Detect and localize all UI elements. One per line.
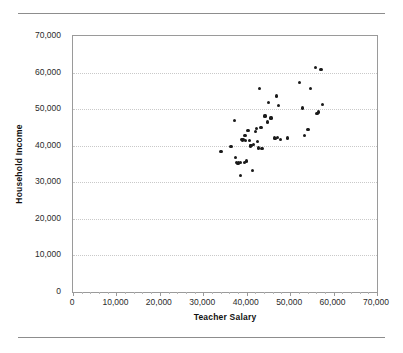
data-point [321,103,324,106]
x-tick-50000 [290,292,291,296]
plot-area [72,35,378,293]
x-tick-label-40000: 40,000 [233,297,259,307]
data-point [286,136,289,139]
data-point [246,129,249,132]
y-axis-title: Household Income [14,35,28,293]
data-point [267,101,270,104]
top-rule [18,13,385,14]
x-tick-56000 [316,292,317,294]
x-tick-58000 [325,292,326,294]
gridline-y-20000 [73,219,377,220]
data-point [306,128,309,131]
data-point [279,138,282,141]
x-tick-label-70000: 70,000 [363,297,389,307]
x-tick-8000 [108,292,109,294]
data-point [219,150,222,153]
x-tick-22000 [169,292,170,294]
data-point [229,145,232,148]
data-point [260,147,263,150]
bottom-rule [18,337,385,338]
x-tick-52000 [299,292,300,294]
data-point [256,140,259,143]
y-axis-tick-labels: 010,00020,00030,00040,00050,00060,00070,… [0,35,68,293]
x-tick-2000 [82,292,83,294]
gridline-y-60000 [73,73,377,74]
y-tick-label-60000: 60,000 [35,67,61,77]
x-tick-34000 [221,292,222,294]
x-axis-title: Teacher Salary [72,312,378,322]
data-point [233,119,236,122]
gridline-y-50000 [73,109,377,110]
data-point [275,94,278,97]
x-tick-12000 [125,292,126,294]
data-point [245,159,248,162]
y-tick-label-50000: 50,000 [35,103,61,113]
x-tick-44000 [264,292,265,294]
x-tick-0 [73,292,74,296]
x-tick-62000 [342,292,343,294]
y-tick-label-70000: 70,000 [35,30,61,40]
data-point [298,81,301,84]
data-point [277,104,280,107]
y-tick-label-40000: 40,000 [35,140,61,150]
data-point [309,87,312,90]
x-tick-26000 [186,292,187,294]
figure: 010,00020,00030,00040,00050,00060,00070,… [0,0,403,353]
x-tick-label-10000: 10,000 [102,297,128,307]
data-point [243,134,246,137]
data-point [244,139,247,142]
data-point [258,87,261,90]
gridline-y-10000 [73,255,377,256]
x-tick-32000 [212,292,213,294]
data-point [317,110,320,113]
x-tick-14000 [134,292,135,294]
gridline-y-30000 [73,182,377,183]
data-point [263,114,266,117]
gridline-y-40000 [73,146,377,147]
data-point [239,174,242,177]
y-tick-label-20000: 20,000 [35,213,61,223]
y-tick-label-30000: 30,000 [35,176,61,186]
data-point [314,66,317,69]
data-point [301,106,304,109]
x-tick-label-30000: 30,000 [189,297,215,307]
x-tick-label-50000: 50,000 [276,297,302,307]
y-tick-label-10000: 10,000 [35,249,61,259]
x-tick-20000 [160,292,161,296]
x-tick-66000 [360,292,361,294]
data-point [259,126,262,129]
x-tick-6000 [99,292,100,294]
x-tick-label-60000: 60,000 [320,297,346,307]
x-tick-54000 [308,292,309,294]
x-tick-label-20000: 20,000 [146,297,172,307]
x-tick-24000 [177,292,178,294]
x-tick-48000 [281,292,282,294]
x-tick-70000 [377,292,378,296]
data-point [319,68,322,71]
data-point [255,127,258,130]
x-tick-16000 [142,292,143,294]
x-tick-40000 [247,292,248,296]
x-tick-42000 [255,292,256,294]
x-tick-68000 [368,292,369,294]
x-tick-46000 [273,292,274,294]
data-point [251,169,254,172]
x-tick-30000 [203,292,204,296]
y-tick-label-0: 0 [56,286,61,296]
x-tick-4000 [90,292,91,294]
data-point [269,116,272,119]
data-point [303,134,306,137]
x-axis-tick-labels: 010,00020,00030,00040,00050,00060,00070,… [72,297,378,311]
x-tick-28000 [195,292,196,294]
data-point [254,130,257,133]
x-tick-36000 [229,292,230,294]
x-tick-64000 [351,292,352,294]
x-tick-10000 [116,292,117,296]
x-tick-18000 [151,292,152,294]
data-point [234,156,237,159]
data-point [266,120,269,123]
x-tick-60000 [334,292,335,296]
x-tick-label-0: 0 [70,297,75,307]
x-tick-38000 [238,292,239,294]
data-point [248,139,251,142]
